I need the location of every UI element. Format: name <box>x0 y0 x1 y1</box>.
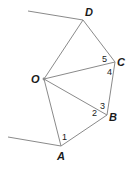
center-point-o <box>43 78 46 81</box>
angle-label-2: 2 <box>92 108 97 118</box>
segment-ab <box>61 115 107 146</box>
angle-label-3: 3 <box>100 101 105 111</box>
vertex-label-a: A <box>56 150 65 162</box>
ray-from-a <box>8 137 61 146</box>
segment-od <box>44 20 83 79</box>
edges <box>44 20 115 146</box>
vertex-points <box>43 78 46 81</box>
angle-label-4: 4 <box>107 67 112 77</box>
geometry-diagram: OABCD 12345 <box>0 0 132 169</box>
segment-oc <box>44 62 115 79</box>
vertex-label-d: D <box>85 6 93 18</box>
segment-ob <box>44 79 107 115</box>
vertex-label-b: B <box>109 111 117 123</box>
angle-label-1: 1 <box>62 132 67 142</box>
ray-from-d <box>28 11 83 20</box>
segment-cd <box>83 20 115 62</box>
angle-label-5: 5 <box>102 54 107 64</box>
segment-oa <box>44 79 61 146</box>
vertex-label-c: C <box>117 56 126 68</box>
vertex-label-o: O <box>31 73 40 85</box>
